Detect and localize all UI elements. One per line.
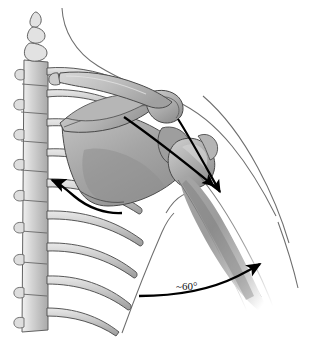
process-notch-5 (14, 190, 24, 201)
process-notch-6 (14, 222, 24, 233)
vertebral-body-column (22, 60, 48, 332)
angle-label: ~60° (176, 280, 197, 292)
process-notch-2 (14, 99, 24, 110)
process-notch-8 (14, 287, 24, 298)
process-notch-9 (14, 317, 24, 328)
lateral-process-notches (14, 69, 24, 328)
shoulder-anatomy-figure: ~60° (0, 0, 326, 337)
process-notch-7 (14, 254, 24, 265)
illustration-canvas: ~60° (0, 0, 326, 337)
clavicle-medial-end (49, 73, 60, 85)
process-notch-1 (15, 69, 24, 80)
process-notch-3 (14, 129, 24, 140)
process-notch-4 (14, 159, 24, 170)
